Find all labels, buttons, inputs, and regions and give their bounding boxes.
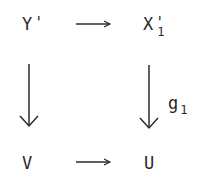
arrow-bottom-horizontal	[76, 159, 110, 165]
node-v: V	[22, 155, 32, 172]
node-x-prime-1: X'1	[143, 16, 172, 33]
node-x-prime-1-base: X	[143, 14, 153, 34]
node-u-base: U	[144, 153, 154, 173]
arrow-top-horizontal	[76, 21, 110, 27]
node-u: U	[144, 155, 154, 172]
arrow-label-g1-base: g	[168, 93, 178, 113]
node-y-prime: Y'	[22, 16, 43, 33]
arrow-left-vertical	[20, 64, 38, 126]
node-y-prime-mark: '	[34, 14, 43, 32]
node-y-prime-base: Y	[22, 14, 32, 34]
arrow-label-g1: g1	[168, 95, 187, 112]
node-x-prime-1-subscript: 1	[157, 25, 164, 39]
node-v-base: V	[22, 153, 32, 173]
arrow-label-g1-subscript: 1	[180, 103, 187, 117]
arrow-right-vertical	[140, 65, 158, 128]
